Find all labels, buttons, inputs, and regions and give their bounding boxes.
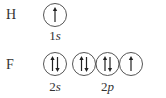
electron-down-arrow-icon <box>84 57 88 72</box>
electron-up-arrow-icon <box>129 56 133 71</box>
orbital-2p-2-f <box>96 53 119 76</box>
electron-down-arrow-icon <box>108 57 112 72</box>
orbital-diagram: H 1s F 2s <box>0 0 166 98</box>
electron-up-arrow-icon <box>79 56 83 71</box>
electron-up-arrow-icon <box>103 56 107 71</box>
orbital-2p-1-f <box>73 53 96 76</box>
orbital-label-2s: 2s <box>49 79 61 94</box>
element-label-f: F <box>6 57 14 72</box>
electron-down-arrow-icon <box>55 57 59 72</box>
orbital-2p-3-f <box>120 53 143 76</box>
orbital-label-2p: 2p <box>101 79 115 94</box>
electron-up-arrow-icon <box>50 56 54 71</box>
electron-up-arrow-icon <box>53 7 57 22</box>
element-label-h: H <box>6 7 16 22</box>
orbital-1s-h <box>44 4 67 27</box>
orbital-label-1s: 1s <box>49 28 61 43</box>
orbital-2s-f <box>44 53 67 76</box>
